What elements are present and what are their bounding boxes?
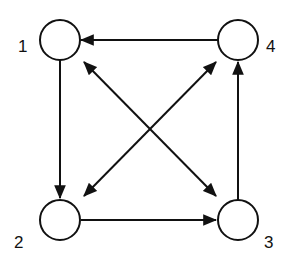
node-label-1: 1	[18, 37, 27, 56]
node-label-3: 3	[264, 233, 273, 252]
node-label-2: 2	[14, 233, 23, 252]
graph-diagram: 1 2 3 4	[0, 0, 291, 258]
node-4	[218, 20, 258, 60]
node-label-4: 4	[266, 37, 275, 56]
node-3	[218, 200, 258, 240]
node-2	[40, 200, 80, 240]
node-1	[40, 20, 80, 60]
